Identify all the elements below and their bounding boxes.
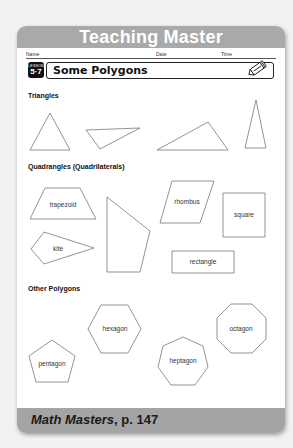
triangle-scalene: [157, 122, 228, 150]
rhombus-label: rhombus: [174, 198, 200, 205]
trapezoid-label: trapezoid: [50, 201, 77, 209]
kite-label: kite: [53, 245, 64, 252]
rectangle-label: rectangle: [190, 258, 217, 266]
triangle-isosceles: [245, 100, 266, 148]
triangle-equilateral: [30, 113, 70, 150]
footer-book-title: Math Masters: [31, 412, 114, 427]
footer-bar: Math Masters, p. 147: [17, 408, 285, 433]
teaching-master-card: Teaching Master Name Date Time LESSON 5·…: [17, 26, 285, 433]
footer-page: , p. 147: [114, 412, 158, 427]
octagon-label: octagon: [229, 325, 253, 333]
footer-reference: Math Masters, p. 147: [31, 412, 158, 427]
triangle-obtuse: [86, 128, 140, 149]
quadrilateral-irregular: [107, 197, 150, 272]
shapes-canvas: trapezoid kite rhombus square rectangle …: [17, 26, 285, 433]
heptagon-label: heptagon: [169, 357, 196, 365]
hexagon-label: hexagon: [103, 325, 128, 333]
pentagon-label: pentagon: [38, 360, 65, 368]
square-label: square: [234, 211, 254, 219]
